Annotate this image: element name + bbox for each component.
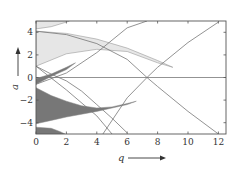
stability-chart: 024681012 −4−2024 q a: [0, 0, 243, 169]
x-tick-label: 10: [182, 137, 194, 147]
y-tick-label: −2: [20, 95, 33, 105]
x-tick-label: 2: [64, 137, 70, 147]
boundary-curve: [103, 22, 218, 134]
x-tick-label: 8: [155, 137, 161, 147]
region-dark: [36, 88, 136, 124]
y-tick-label: 2: [27, 50, 33, 60]
region-dark: [36, 127, 65, 134]
x-axis-label: q: [118, 152, 124, 163]
y-tick-label: −4: [20, 118, 34, 128]
y-axis-arrow-icon: [16, 47, 21, 76]
x-tick-label: 4: [94, 137, 100, 147]
region-light: [36, 21, 69, 29]
y-axis-label: a: [9, 84, 20, 90]
x-tick-label: 0: [33, 137, 39, 147]
x-tick-label: 6: [124, 137, 130, 147]
region-dark: [36, 63, 76, 85]
region-light: [36, 31, 173, 67]
x-tick-label: 12: [213, 137, 224, 147]
x-axis-arrow-icon: [128, 156, 166, 161]
y-tick-label: 4: [27, 27, 33, 37]
y-tick-label: 0: [27, 73, 33, 83]
